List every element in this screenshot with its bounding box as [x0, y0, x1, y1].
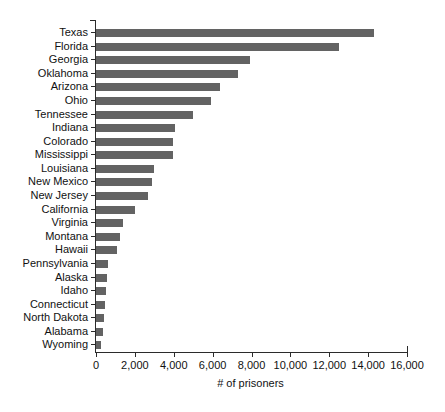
bar — [96, 165, 154, 173]
bar-row: Alabama — [96, 325, 407, 339]
bar — [96, 29, 374, 37]
bar-row: Ohio — [96, 94, 407, 108]
bar-row: New Jersey — [96, 189, 407, 203]
x-axis-tick-label: 4,000 — [160, 358, 188, 372]
bar — [96, 43, 339, 51]
x-axis-tick-label: 14,000 — [351, 358, 385, 372]
bar-row: Colorado — [96, 135, 407, 149]
bar — [96, 97, 211, 105]
bar-row: North Dakota — [96, 311, 407, 325]
bar — [96, 233, 120, 241]
bar-row: Montana — [96, 230, 407, 244]
bar — [96, 83, 220, 91]
plot-area: TexasFloridaGeorgiaOklahomaArizonaOhioTe… — [96, 26, 407, 352]
bar-row: Georgia — [96, 53, 407, 67]
bar — [96, 314, 104, 322]
bar — [96, 192, 148, 200]
x-axis-tick — [252, 352, 253, 357]
bar — [96, 151, 173, 159]
x-axis-tick — [407, 352, 408, 357]
bar — [96, 301, 105, 309]
x-axis-tick — [135, 352, 136, 357]
bar-row: Tennessee — [96, 108, 407, 122]
bar-row: Louisiana — [96, 162, 407, 176]
bar-row: Pennsylvania — [96, 257, 407, 271]
bar — [96, 138, 173, 146]
bar-row: Virginia — [96, 216, 407, 230]
bar — [96, 260, 108, 268]
x-axis-tick-label: 16,000 — [390, 358, 424, 372]
bar — [96, 219, 123, 227]
bar-chart: TexasFloridaGeorgiaOklahomaArizonaOhioTe… — [0, 0, 445, 412]
x-axis-title: # of prisoners — [0, 377, 445, 389]
bar — [96, 178, 152, 186]
bar-row: Alaska — [96, 271, 407, 285]
bar — [96, 246, 117, 254]
bar — [96, 328, 103, 336]
bar-row: California — [96, 203, 407, 217]
x-axis-tick-label: 10,000 — [274, 358, 308, 372]
x-axis-tick-label: 0 — [93, 358, 99, 372]
x-axis-tick — [96, 352, 97, 357]
bar — [96, 341, 101, 349]
x-axis-tick-label: 6,000 — [199, 358, 227, 372]
bar — [96, 287, 106, 295]
x-axis-tick — [368, 352, 369, 357]
bar-row: Florida — [96, 40, 407, 54]
bar — [96, 111, 193, 119]
bar — [96, 70, 238, 78]
x-axis-tick — [174, 352, 175, 357]
bar — [96, 56, 250, 64]
bar-row: Wyoming — [96, 338, 407, 352]
bar — [96, 274, 107, 282]
y-axis-top-cap — [90, 20, 96, 21]
bar-row: Arizona — [96, 80, 407, 94]
bar-row: Idaho — [96, 284, 407, 298]
x-axis-tick — [329, 352, 330, 357]
bar-row: Hawaii — [96, 243, 407, 257]
bar-row: Connecticut — [96, 298, 407, 312]
bar-row: Oklahoma — [96, 67, 407, 81]
bar-row: Mississippi — [96, 148, 407, 162]
bar — [96, 124, 175, 132]
x-axis-title-label: # of prisoners — [217, 377, 284, 389]
bar-row: Indiana — [96, 121, 407, 135]
bar-row: Texas — [96, 26, 407, 40]
bar — [96, 206, 135, 214]
bar-row: New Mexico — [96, 175, 407, 189]
x-axis-tick — [290, 352, 291, 357]
x-axis-tick-label: 12,000 — [312, 358, 346, 372]
y-axis-tick-label: Wyoming — [42, 337, 88, 352]
x-axis-tick-label: 2,000 — [121, 358, 149, 372]
x-axis-tick-label: 8,000 — [238, 358, 266, 372]
x-axis-tick — [213, 352, 214, 357]
